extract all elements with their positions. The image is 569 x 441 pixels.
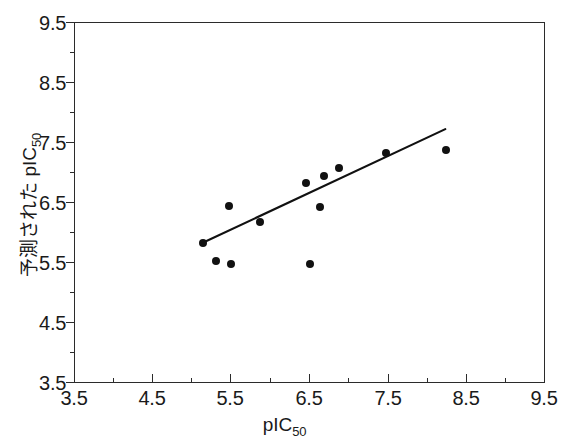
y-axis-title-subscript: 50 [29,133,44,147]
x-axis-title: pIC50 [0,414,569,439]
scatter-plot-figure: 9.5 8.5 7.5 6.5 5.5 4.5 3.5 3.5 4.5 5.5 … [0,0,569,441]
y-axis-title-base: 予測された pIC [19,147,40,277]
xtick-mark-4-5 [152,374,153,383]
xtick-label-5-5: 5.5 [202,387,258,410]
xtick-label-8-5: 8.5 [438,387,494,410]
xtick-label-3-5: 3.5 [46,387,102,410]
xtick-minor-6-0 [270,378,271,383]
xtick-mark-3-5 [74,374,75,383]
xtick-label-6-5: 6.5 [281,387,337,410]
xtick-mark-6-5 [309,374,310,383]
xtick-minor-5-0 [191,378,192,383]
xtick-minor-7-0 [348,378,349,383]
y-axis-title: 予測された pIC50 [14,80,44,330]
xtick-mark-7-5 [388,374,389,383]
xtick-mark-9-5 [544,374,545,383]
xtick-label-4-5: 4.5 [124,387,180,410]
xtick-minor-9-0 [505,378,506,383]
xtick-mark-5-5 [230,374,231,383]
xtick-label-9-5: 9.5 [516,387,569,410]
xtick-label-7-5: 7.5 [360,387,416,410]
xtick-mark-8-5 [466,374,467,383]
xtick-minor-8-0 [427,378,428,383]
x-axis-title-base: pIC [263,414,293,435]
xtick-minor-4-0 [113,378,114,383]
plot-area [74,22,545,383]
x-axis-title-subscript: 50 [292,424,306,439]
ytick-label-9-5: 9.5 [20,12,66,35]
